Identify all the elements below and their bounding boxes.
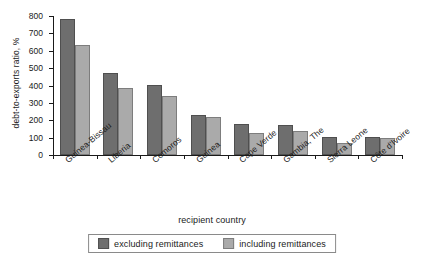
y-tick-label: 300 bbox=[29, 99, 43, 108]
y-tick: 100 bbox=[49, 138, 53, 139]
y-tick: 200 bbox=[49, 120, 53, 121]
bar-group bbox=[60, 19, 90, 155]
y-axis-title: debt-to-exports ratio, % bbox=[11, 23, 21, 143]
chart-legend: excluding remittancesincluding remittanc… bbox=[88, 234, 336, 253]
x-axis-title: recipient country bbox=[0, 215, 424, 225]
bar[interactable] bbox=[60, 19, 75, 155]
legend-item[interactable]: including remittances bbox=[223, 238, 326, 249]
legend-label: including remittances bbox=[239, 239, 326, 249]
legend-swatch-icon bbox=[223, 238, 234, 249]
bar-chart: debt-to-exports ratio, % 010020030040050… bbox=[0, 0, 424, 266]
y-tick-label: 400 bbox=[29, 81, 43, 90]
y-tick-label: 700 bbox=[29, 29, 43, 38]
bar[interactable] bbox=[103, 73, 118, 155]
y-tick: 700 bbox=[49, 33, 53, 34]
y-tick-label: 100 bbox=[29, 133, 43, 142]
y-axis-line bbox=[53, 16, 54, 155]
y-tick: 500 bbox=[49, 68, 53, 69]
legend-item[interactable]: excluding remittances bbox=[98, 238, 203, 249]
y-tick-label: 200 bbox=[29, 116, 43, 125]
y-tick: 600 bbox=[49, 51, 53, 52]
y-tick: 800 bbox=[49, 16, 53, 17]
y-tick-label: 800 bbox=[29, 12, 43, 21]
y-tick-label: 600 bbox=[29, 47, 43, 56]
bar[interactable] bbox=[147, 85, 162, 155]
y-tick-label: 500 bbox=[29, 64, 43, 73]
y-tick-label: 0 bbox=[38, 151, 43, 160]
x-axis-labels: Guinea-BissauLiberiaComorosGuineaCape Ve… bbox=[53, 157, 402, 213]
y-tick: 400 bbox=[49, 86, 53, 87]
legend-swatch-icon bbox=[98, 238, 109, 249]
y-tick: 300 bbox=[49, 103, 53, 104]
legend-label: excluding remittances bbox=[114, 239, 203, 249]
x-tick bbox=[402, 155, 403, 159]
